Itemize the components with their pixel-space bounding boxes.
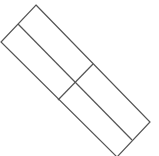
diagram-canvas xyxy=(0,0,159,156)
outer-rectangle xyxy=(1,5,150,156)
